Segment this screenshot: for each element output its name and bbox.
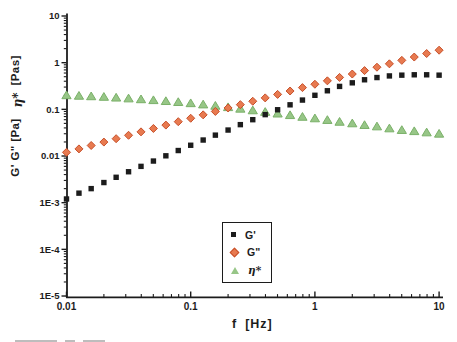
x-axis-title-unit: [Hz]	[245, 317, 273, 331]
svg-text:0.1: 0.1	[184, 301, 198, 312]
legend-label-g-double-prime: G"	[247, 246, 260, 258]
legend-row-eta-star: η*	[231, 262, 271, 278]
series-g-prime-points	[64, 72, 442, 202]
figure: 1010.10.011E-31E-41E-50.010.1110 G' G" […	[0, 0, 457, 342]
svg-text:1: 1	[54, 57, 60, 68]
legend-label-eta-star: η*	[248, 264, 261, 276]
svg-text:0.01: 0.01	[41, 150, 60, 161]
x-axis-title: f[Hz]	[232, 317, 273, 331]
legend-label-g-prime: G'	[245, 229, 256, 241]
chart-canvas: 1010.10.011E-31E-41E-50.010.1110	[0, 0, 457, 342]
legend-row-g-double-prime: G"	[231, 244, 271, 260]
svg-text:0.1: 0.1	[46, 104, 60, 115]
triangle-marker-icon	[231, 267, 239, 274]
svg-text:1E-4: 1E-4	[39, 244, 60, 255]
y-axis-title-unit: [Pas]	[9, 55, 21, 85]
legend-row-g-prime: G'	[231, 227, 271, 243]
diamond-marker-icon	[230, 248, 240, 258]
y-axis-title-eta: η*	[11, 92, 25, 107]
svg-text:1E-5: 1E-5	[39, 290, 60, 301]
x-axis-title-symbol: f	[232, 317, 236, 331]
svg-text:0.01: 0.01	[57, 301, 77, 312]
x-axis-tick-labels: 0.010.1110	[57, 301, 445, 312]
y-axis-title: G' G" [Pa]η*[Pas]	[9, 55, 25, 176]
svg-text:1: 1	[312, 301, 318, 312]
svg-text:10: 10	[49, 10, 60, 21]
legend: G' G" η*	[222, 222, 272, 283]
svg-text:10: 10	[434, 301, 446, 312]
svg-text:1E-3: 1E-3	[39, 197, 59, 208]
square-marker-icon	[231, 232, 236, 237]
y-axis-tick-labels: 1010.10.011E-31E-41E-5	[39, 10, 60, 301]
y-axis-title-main: G' G" [Pa]	[9, 118, 21, 176]
